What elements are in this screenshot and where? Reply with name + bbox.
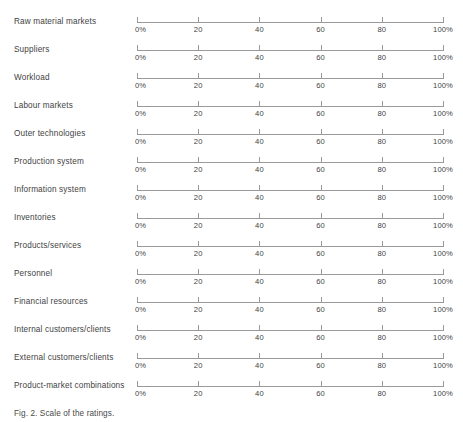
axis-tick [198, 73, 199, 79]
rating-scale-track[interactable]: 0%20406080100% [137, 351, 443, 377]
axis-tick [382, 157, 383, 163]
axis-tick [321, 129, 322, 135]
axis-line [137, 302, 443, 303]
rating-scale-track[interactable]: 0%20406080100% [137, 267, 443, 293]
axis-tick-label: 60 [316, 109, 325, 118]
axis-tick [259, 101, 260, 107]
axis-tick-label: 20 [194, 277, 203, 286]
axis-tick [259, 269, 260, 275]
axis-tick [382, 381, 383, 387]
axis-tick [443, 101, 444, 107]
axis-tick [198, 101, 199, 107]
axis-line [137, 386, 443, 387]
axis-tick [443, 297, 444, 303]
axis-tick-label: 60 [316, 361, 325, 370]
scale-row-label: Labour markets [14, 99, 73, 113]
axis-tick [259, 45, 260, 51]
axis-tick-label: 60 [316, 249, 325, 258]
axis-tick-label: 60 [316, 25, 325, 34]
axis-tick-label: 60 [316, 221, 325, 230]
axis-tick-label: 20 [194, 165, 203, 174]
axis-tick-label: 100% [433, 249, 453, 258]
axis-tick [443, 17, 444, 23]
axis-tick-label: 80 [377, 389, 386, 398]
axis-tick-label: 20 [194, 333, 203, 342]
axis-tick [321, 157, 322, 163]
axis-tick [321, 185, 322, 191]
axis-tick [382, 185, 383, 191]
axis-tick [382, 353, 383, 359]
rating-scale-track[interactable]: 0%20406080100% [137, 99, 443, 125]
axis-tick-label: 100% [433, 193, 453, 202]
axis-tick [198, 353, 199, 359]
axis-tick-label: 0% [135, 333, 146, 342]
axis-tick [443, 269, 444, 275]
axis-tick [198, 297, 199, 303]
axis-tick-label: 40 [255, 137, 264, 146]
axis-tick-label: 100% [433, 277, 453, 286]
axis-line [137, 134, 443, 135]
axis-tick-label: 60 [316, 333, 325, 342]
figure-caption: Fig. 2. Scale of the ratings. [14, 409, 114, 418]
axis-tick [382, 129, 383, 135]
axis-tick [137, 213, 138, 219]
rating-scale-track[interactable]: 0%20406080100% [137, 127, 443, 153]
axis-tick [321, 213, 322, 219]
axis-tick [259, 213, 260, 219]
axis-tick-label: 80 [377, 333, 386, 342]
rating-scale-track[interactable]: 0%20406080100% [137, 155, 443, 181]
axis-tick-label: 40 [255, 333, 264, 342]
axis-tick-label: 60 [316, 81, 325, 90]
scale-row-label: Inventories [14, 211, 56, 225]
scale-row: Internal customers/clients0%20406080100% [0, 323, 463, 351]
rating-scale-track[interactable]: 0%20406080100% [137, 295, 443, 321]
axis-tick [382, 101, 383, 107]
rating-scale-track[interactable]: 0%20406080100% [137, 211, 443, 237]
axis-tick [443, 213, 444, 219]
axis-tick [382, 17, 383, 23]
rating-scale-track[interactable]: 0%20406080100% [137, 43, 443, 69]
axis-tick [443, 185, 444, 191]
scale-row: Product-market combinations0%20406080100… [0, 379, 463, 407]
axis-tick-label: 80 [377, 193, 386, 202]
axis-tick-label: 100% [433, 109, 453, 118]
axis-tick [382, 241, 383, 247]
axis-tick [259, 381, 260, 387]
axis-line [137, 246, 443, 247]
rating-scale-track[interactable]: 0%20406080100% [137, 323, 443, 349]
rating-scale-track[interactable]: 0%20406080100% [137, 379, 443, 405]
axis-tick-label: 20 [194, 25, 203, 34]
axis-tick [443, 73, 444, 79]
axis-tick [259, 17, 260, 23]
axis-tick-label: 0% [135, 53, 146, 62]
axis-tick [382, 45, 383, 51]
rating-scale-track[interactable]: 0%20406080100% [137, 15, 443, 41]
axis-tick [137, 157, 138, 163]
axis-tick [443, 241, 444, 247]
axis-line [137, 358, 443, 359]
axis-tick-label: 100% [433, 333, 453, 342]
axis-line [137, 22, 443, 23]
axis-tick [137, 73, 138, 79]
scale-row-label: Information system [14, 183, 86, 197]
axis-tick-label: 100% [433, 361, 453, 370]
axis-tick [259, 325, 260, 331]
axis-tick-label: 80 [377, 25, 386, 34]
axis-tick-label: 0% [135, 249, 146, 258]
axis-tick-label: 40 [255, 389, 264, 398]
rating-scale-track[interactable]: 0%20406080100% [137, 239, 443, 265]
axis-tick [137, 353, 138, 359]
axis-tick-label: 80 [377, 305, 386, 314]
axis-tick-label: 40 [255, 109, 264, 118]
axis-line [137, 106, 443, 107]
axis-tick [137, 129, 138, 135]
axis-tick [321, 101, 322, 107]
rating-scale-track[interactable]: 0%20406080100% [137, 71, 443, 97]
axis-line [137, 78, 443, 79]
axis-tick-label: 40 [255, 361, 264, 370]
axis-tick [321, 45, 322, 51]
axis-tick-label: 0% [135, 221, 146, 230]
axis-tick-label: 0% [135, 109, 146, 118]
scale-row: External customers/clients0%20406080100% [0, 351, 463, 379]
rating-scale-track[interactable]: 0%20406080100% [137, 183, 443, 209]
